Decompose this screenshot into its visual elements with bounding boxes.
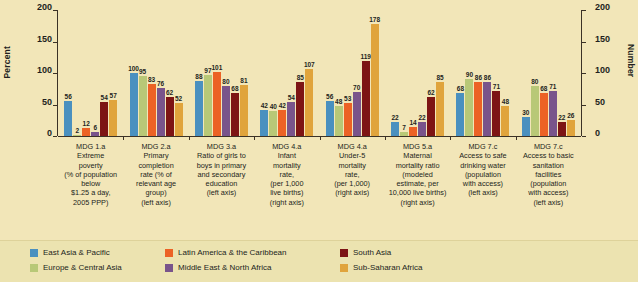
bar-value-label: 48 <box>502 98 509 105</box>
axis-tick-mark <box>53 73 57 74</box>
bar-fill <box>409 127 417 136</box>
category-label-line: mortality <box>254 161 319 170</box>
bar: 22 <box>418 122 426 136</box>
legend-item[interactable]: Europe & Central Asia <box>30 263 122 272</box>
bar-fill <box>549 91 557 136</box>
category-label-line: facilities <box>516 170 581 179</box>
bar-value-label: 90 <box>466 71 473 78</box>
bar: 80 <box>531 86 539 136</box>
bar-group: 308068712226 <box>516 10 581 136</box>
bar: 48 <box>335 106 343 136</box>
bar-value-label: 85 <box>297 74 304 81</box>
bar-fill <box>64 101 72 136</box>
bar-value-label: 56 <box>326 93 333 100</box>
bar-group: 1009583766252 <box>123 10 188 136</box>
bar-fill <box>522 117 530 136</box>
bar-group: 4240425485107 <box>254 10 319 136</box>
group-tick-mark <box>123 136 124 140</box>
bar-value-label: 71 <box>549 83 556 90</box>
legend-item-label: Sub-Saharan Africa <box>353 263 422 272</box>
bar-value-label: 62 <box>427 89 434 96</box>
category-label-line: Access to safe <box>450 151 515 160</box>
bar-value-label: 68 <box>231 85 238 92</box>
bar-fill <box>109 100 117 136</box>
axis-tick-label: 150 <box>586 34 633 44</box>
category-label: MDG 7.cAccess to safedrinking water(popu… <box>450 142 515 198</box>
bar-fill <box>531 86 539 136</box>
bar-fill <box>175 103 183 136</box>
bar: 56 <box>64 101 72 136</box>
category-label-line: relevant age <box>123 179 188 188</box>
axis-tick-mark <box>582 10 586 11</box>
bar: 71 <box>549 91 557 136</box>
bar: 90 <box>465 79 473 136</box>
group-tick-mark <box>385 136 386 140</box>
legend-item[interactable]: Middle East & North Africa <box>165 263 271 272</box>
bar-value-label: 80 <box>222 78 229 85</box>
group-tick-mark <box>516 136 517 140</box>
bar-fill <box>148 84 156 136</box>
bar-value-label: 52 <box>175 95 182 102</box>
legend-item-label: Europe & Central Asia <box>43 263 122 272</box>
legend-item[interactable]: Latin America & the Caribbean <box>165 248 287 257</box>
category-label-line: (per 1,000) <box>320 179 385 188</box>
category-label-line: (% of population <box>58 170 123 179</box>
bar: 12 <box>82 128 90 136</box>
bar-fill <box>195 81 203 136</box>
plot-area: Percent Number 200150100500 200150100500… <box>0 0 638 148</box>
bar: 107 <box>305 69 313 136</box>
category-label-line: rate, <box>254 170 319 179</box>
bar: 42 <box>278 110 286 136</box>
category-label-line: MDG 5.a <box>385 142 450 151</box>
bar-fill <box>371 24 379 136</box>
bar: 54 <box>287 102 295 136</box>
bar-value-label: 107 <box>304 61 315 68</box>
axis-tick-mark <box>582 73 586 74</box>
bar: 54 <box>100 102 108 136</box>
bar-value-label: 68 <box>540 85 547 92</box>
category-label-line: poverty <box>58 161 123 170</box>
bar-fill <box>456 93 464 136</box>
category-label-line: 10,000 live births) <box>385 188 450 197</box>
bar-value-label: 95 <box>139 68 146 75</box>
category-label-line: live births) <box>254 188 319 197</box>
legend-item[interactable]: South Asia <box>340 248 391 257</box>
legend-item[interactable]: East Asia & Pacific <box>30 248 110 257</box>
category-label-line: drinking water <box>450 161 515 170</box>
bar-fill <box>474 82 482 136</box>
category-label-line: with access) <box>516 188 581 197</box>
bar: 86 <box>474 82 482 136</box>
category-label-line: completion <box>123 161 188 170</box>
bar: 26 <box>567 120 575 136</box>
bar: 85 <box>436 82 444 136</box>
legend-item[interactable]: Sub-Saharan Africa <box>340 263 422 272</box>
bar-fill <box>82 128 90 136</box>
bar-fill <box>418 122 426 136</box>
legend-color-swatch <box>30 264 38 272</box>
category-label-line: (left axis) <box>123 198 188 207</box>
bar-fill <box>436 82 444 136</box>
legend-item-label: East Asia & Pacific <box>43 248 110 257</box>
bar: 56 <box>326 101 334 136</box>
category-label-line: Extreme <box>58 151 123 160</box>
category-label-line: and secondary <box>189 170 254 179</box>
bar: 100 <box>130 73 138 136</box>
category-label: MDG 5.aMaternalmortality ratio(modeledes… <box>385 142 450 207</box>
category-label-line: MDG 1.a <box>58 142 123 151</box>
bar-fill <box>269 111 277 136</box>
bar-value-label: 48 <box>335 98 342 105</box>
bar-fill <box>231 93 239 136</box>
category-label-line: (population <box>450 170 515 179</box>
bar: 22 <box>558 122 566 136</box>
bar: 57 <box>109 100 117 136</box>
bar-value-label: 71 <box>493 83 500 90</box>
bar-value-label: 6 <box>93 124 97 131</box>
bar: 85 <box>296 82 304 136</box>
bar-fill <box>305 69 313 136</box>
legend-color-swatch <box>165 249 173 257</box>
bar: 68 <box>540 93 548 136</box>
bar-fill <box>465 79 473 136</box>
bar-fill <box>166 97 174 136</box>
bar-fill <box>558 122 566 136</box>
bar-fill <box>100 102 108 136</box>
